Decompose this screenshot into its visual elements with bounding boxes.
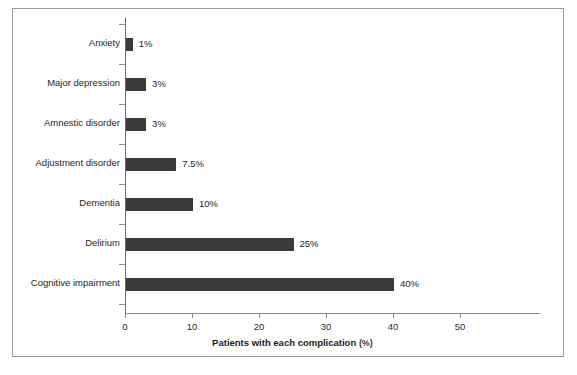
x-axis-line-extension [460, 313, 540, 314]
x-tick-mark [326, 313, 327, 318]
bar [126, 158, 176, 171]
bar [126, 198, 193, 211]
chart-page: 01020304050 AnxietyMajor depressionAmnes… [0, 0, 577, 375]
y-tick-mark [119, 224, 125, 225]
category-label-row: Cognitive impairment [0, 278, 120, 290]
category-label: Cognitive impairment [31, 278, 120, 288]
category-label: Anxiety [89, 38, 120, 48]
category-label: Delirium [85, 238, 120, 248]
y-tick-mark [119, 304, 125, 305]
x-tick-mark [125, 313, 126, 318]
x-axis-line [125, 313, 460, 314]
bar [126, 38, 133, 51]
category-label: Amnestic disorder [44, 118, 120, 128]
y-tick-mark [119, 64, 125, 65]
bar-value-label: 25% [300, 239, 319, 249]
x-tick-mark [460, 313, 461, 318]
category-label-row: Adjustment disorder [0, 158, 120, 170]
category-label-row: Amnestic disorder [0, 118, 120, 130]
bar-value-label: 1% [139, 39, 153, 49]
x-tick-mark [259, 313, 260, 318]
bar [126, 278, 394, 291]
x-tick-label: 10 [187, 321, 198, 332]
bar [126, 118, 146, 131]
x-tick-label: 20 [254, 321, 265, 332]
x-tick-label: 50 [455, 321, 466, 332]
bar-value-label: 3% [152, 119, 166, 129]
bar-value-label: 40% [400, 279, 419, 289]
x-tick-label: 30 [321, 321, 332, 332]
bar-value-label: 10% [199, 199, 218, 209]
y-tick-mark [119, 24, 125, 25]
bar-value-label: 3% [152, 79, 166, 89]
x-tick-label: 40 [388, 321, 399, 332]
y-tick-mark [119, 104, 125, 105]
x-axis-title-unit: (%) [359, 338, 373, 348]
x-tick-mark [393, 313, 394, 318]
category-label: Major depression [47, 78, 120, 88]
x-axis-title: Patients with each complication (%) [125, 337, 460, 348]
y-tick-mark [119, 264, 125, 265]
x-tick-label: 0 [122, 321, 127, 332]
bar [126, 78, 146, 91]
category-label: Dementia [79, 198, 120, 208]
bar-chart-plot-area: 01020304050 AnxietyMajor depressionAmnes… [0, 0, 577, 375]
x-axis-title-text: Patients with each complication [212, 337, 356, 348]
bar-value-label: 7.5% [182, 159, 204, 169]
category-label-row: Delirium [0, 238, 120, 250]
y-tick-mark [119, 144, 125, 145]
category-label: Adjustment disorder [36, 158, 120, 168]
category-label-row: Major depression [0, 78, 120, 90]
x-tick-mark [192, 313, 193, 318]
category-label-row: Anxiety [0, 38, 120, 50]
bar [126, 238, 294, 251]
category-label-row: Dementia [0, 198, 120, 210]
y-tick-mark [119, 184, 125, 185]
